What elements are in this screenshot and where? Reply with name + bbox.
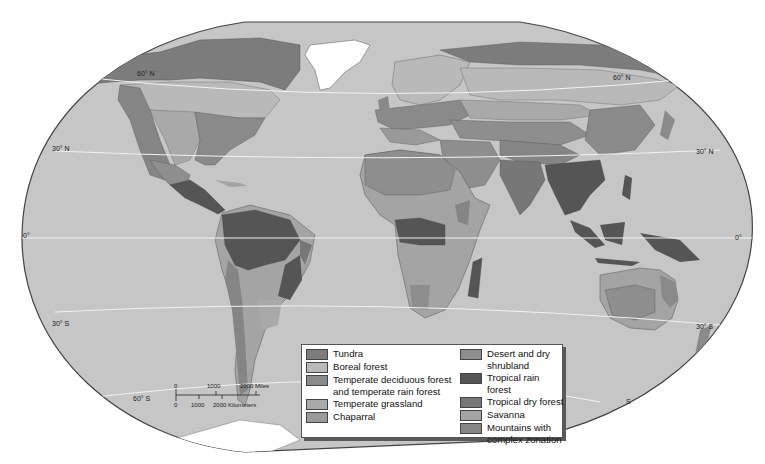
legend-label: Temperate grassland (333, 398, 423, 410)
scale-miles-2000: 2000 Miles (240, 383, 269, 389)
legend-item-tropical-dry-forest: Tropical dry forest (460, 396, 564, 408)
legend-item-tundra: Tundra (306, 348, 456, 360)
legend-item-temperate-grassland: Temperate grassland (306, 398, 456, 410)
legend-label: Mountains with complex zonation (487, 422, 562, 445)
lat-label-30n-right: 30° N (696, 148, 714, 155)
scale-km-1000: 1000 (191, 402, 205, 408)
legend-item-boreal-forest: Boreal forest (306, 361, 456, 373)
biome-legend: Tundra Boreal forest Temperate deciduous… (301, 344, 563, 438)
legend-label: Tundra (333, 348, 363, 360)
legend-column-left: Tundra Boreal forest Temperate deciduous… (306, 348, 456, 424)
legend-swatch (460, 397, 482, 408)
legend-swatch (460, 410, 482, 421)
legend-item-mountains: Mountains with complex zonation (460, 422, 564, 445)
legend-swatch (306, 375, 328, 386)
legend-label: Boreal forest (333, 361, 387, 373)
legend-item-tropical-rain-forest: Tropical rain forest (460, 372, 564, 395)
legend-column-right: Desert and dry shrubland Tropical rain f… (460, 348, 564, 447)
lat-label-60n-right: 60° N (613, 74, 631, 81)
legend-label: Temperate deciduous forest and temperate… (333, 374, 451, 397)
scale-miles-1000: 1000 (207, 383, 221, 389)
legend-label: Tropical dry forest (487, 396, 563, 408)
legend-label: Desert and dry shrubland (487, 348, 564, 371)
legend-swatch (460, 349, 482, 360)
legend-item-temperate-forest: Temperate deciduous forest and temperate… (306, 374, 456, 397)
legend-label: Tropical rain forest (487, 372, 564, 395)
lat-label-30s-left: 30° S (52, 320, 70, 327)
legend-label: Savanna (487, 409, 525, 421)
legend-label: Chaparral (333, 411, 375, 423)
lat-label-30n-left: 30° N (52, 145, 70, 152)
scale-km-2000: 2000 Kilometers (213, 402, 256, 408)
legend-swatch (460, 373, 482, 384)
lat-label-60n-left: 60° N (137, 70, 155, 77)
lat-label-60s-left: 60° S (133, 395, 151, 402)
legend-swatch (306, 412, 328, 423)
lat-label-30s-right: 30° S (696, 323, 714, 330)
lat-label-60s-right: S (626, 398, 631, 405)
legend-item-chaparral: Chaparral (306, 411, 456, 423)
lat-label-eq-left: 0° (23, 232, 30, 239)
legend-swatch (306, 362, 328, 373)
legend-item-desert: Desert and dry shrubland (460, 348, 564, 371)
legend-swatch (306, 399, 328, 410)
legend-item-savanna: Savanna (460, 409, 564, 421)
legend-swatch (460, 423, 482, 434)
legend-swatch (306, 349, 328, 360)
lat-label-eq-right: 0° (735, 234, 742, 241)
